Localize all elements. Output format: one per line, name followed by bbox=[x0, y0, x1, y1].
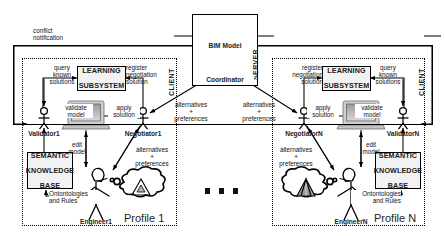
learning-subsystem-right: LEARNINGSUBSYSTEM bbox=[322, 66, 371, 91]
learning-subsystem-left: LEARNINGSUBSYSTEM bbox=[77, 66, 126, 91]
wire-mask-right bbox=[274, 33, 424, 40]
engineern-label: EngineerN bbox=[327, 218, 375, 225]
edge-query-known-solutions-left: queryknownsolutions bbox=[46, 64, 78, 85]
edge-edit-model-left: editmodel bbox=[64, 141, 90, 155]
edge-register-negotiation-solution-left: registernegotiationsolution bbox=[126, 64, 164, 85]
profiles-ellipsis bbox=[205, 188, 238, 194]
client-zone-label-right: CLIENT bbox=[418, 68, 425, 96]
negotiator1-label: Negotiator1 bbox=[117, 130, 169, 137]
profile-1-title: Profile 1 bbox=[124, 212, 164, 224]
edge-apply-solution-right: applysolution bbox=[307, 104, 339, 118]
edge-alternatives-preferences-left-server: alternatives+preferences bbox=[166, 101, 216, 122]
diagram-canvas: SERVER BIM Model Coordinator conflictnot… bbox=[0, 0, 445, 236]
semantic-knowledge-base-left: SEMANTICKNOWLEDGEBASE bbox=[27, 152, 73, 189]
profile-n-title: Profile N bbox=[374, 212, 416, 224]
edge-alternatives-preferences-left-engineer: alternatives+preferences bbox=[126, 146, 178, 167]
negotiatorn-label: NegotiatorN bbox=[278, 130, 330, 137]
coordinator-label: Coordinator bbox=[196, 76, 254, 83]
edge-apply-solution-left: applysolution bbox=[108, 104, 140, 118]
edge-edit-model-right: editmodel bbox=[358, 141, 384, 155]
edge-query-known-solutions-right: queryknownsolutions bbox=[371, 64, 405, 85]
edge-validate-model-left: validatemodel bbox=[59, 104, 93, 118]
edge-ontologies-and-rules-left: Ontontologiesand Rules bbox=[49, 190, 97, 204]
edge-validate-model-right: validatemodel bbox=[355, 104, 389, 118]
semantic-knowledge-base-right: SEMANTICKNOWLEDGEBASE bbox=[375, 152, 421, 189]
validator1-label: Validator1 bbox=[20, 130, 68, 137]
bim-model-label: BIM Model bbox=[198, 42, 252, 49]
client-zone-label-left: CLIENT bbox=[168, 68, 175, 96]
validatorn-label: ValidatorN bbox=[379, 130, 427, 137]
edge-register-negotiation-solution-right: registernegotiationsolution bbox=[283, 64, 323, 85]
edge-ontologies-and-rules-right: Ontontologiesand Rules bbox=[351, 190, 401, 204]
edge-alternatives-preferences-right-server: alternatives+preferences bbox=[234, 101, 284, 122]
conflict-notification-label: conflictnotification bbox=[33, 27, 103, 41]
edge-alternatives-preferences-right-engineer: alternatives+preferences bbox=[270, 146, 322, 167]
engineer1-label: Engineer1 bbox=[72, 218, 120, 225]
